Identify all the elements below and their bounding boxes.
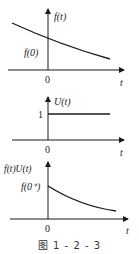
panel-2-x-label: t [120,148,123,158]
figure-drawing [0,0,139,254]
panel-3-value-label: f(0⁺) [21,182,40,192]
panel-1-origin-label: 0 [45,75,50,85]
panel-3-x-label: t [126,226,129,236]
figure-caption: 图 1 - 2 - 3 [0,237,139,252]
panel-2-origin-label: 0 [45,145,50,155]
panel-1-value-label: f(0) [24,48,38,58]
panel-2-y-label: U(t) [54,97,71,107]
panel-1-y-label: f(t) [54,12,66,22]
panel-1-x-label: t [120,78,123,88]
panel-3-y-label: f(t)U(t) [4,164,31,174]
panel-3-origin-label: 0 [45,224,50,234]
panel-2-value-label: 1 [38,110,43,120]
